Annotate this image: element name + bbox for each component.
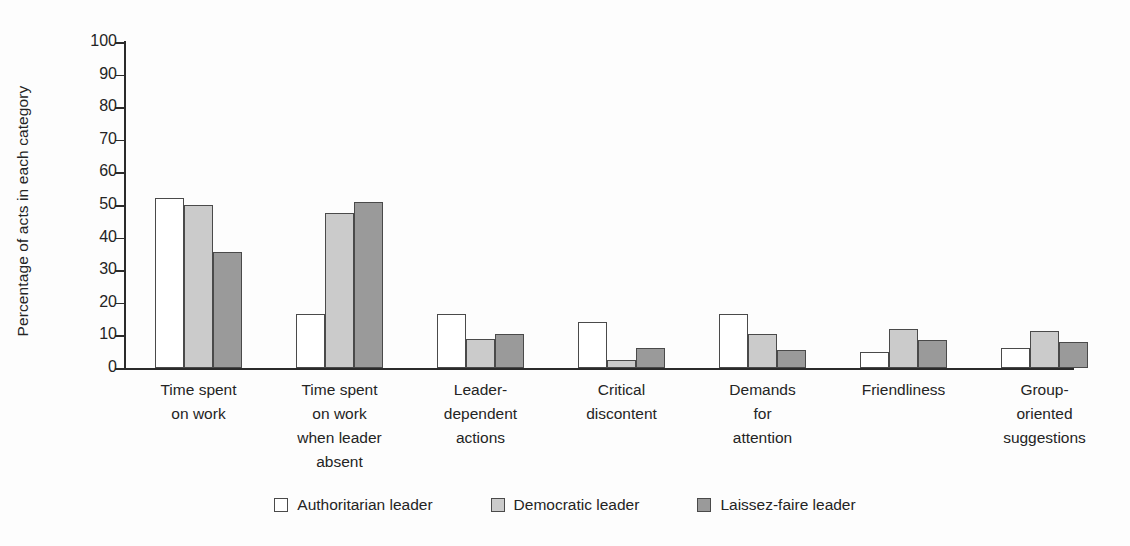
category-label-line: suggestions: [965, 426, 1125, 450]
legend-item: Laissez-faire leader: [697, 496, 855, 514]
category-label: Leader-dependentactions: [401, 378, 561, 450]
legend-swatch-icon: [491, 498, 505, 512]
bar: [1030, 331, 1059, 368]
category-label: Group-orientedsuggestions: [965, 378, 1125, 450]
legend-label: Laissez-faire leader: [720, 496, 855, 514]
category-label-line: discontent: [542, 402, 702, 426]
category-label-line: absent: [260, 450, 420, 474]
category-label-line: Time spent: [260, 378, 420, 402]
bar: [354, 202, 383, 368]
chart-legend: Authoritarian leaderDemocratic leaderLai…: [0, 496, 1130, 514]
category-label: Time spenton workwhen leaderabsent: [260, 378, 420, 474]
category-label-line: Friendliness: [824, 378, 984, 402]
category-label-line: attention: [683, 426, 843, 450]
bar: [1059, 342, 1088, 368]
bar-group: [296, 42, 383, 368]
bar-group: [719, 42, 806, 368]
category-label: Friendliness: [824, 378, 984, 402]
bar: [636, 348, 665, 368]
bar-group: [155, 42, 242, 368]
category-label-line: Critical: [542, 378, 702, 402]
bar: [777, 350, 806, 368]
category-label-line: Time spent: [119, 378, 279, 402]
y-tick-label: 40: [99, 227, 117, 247]
category-label-line: Demands: [683, 378, 843, 402]
y-tick-label: 100: [90, 31, 117, 51]
y-tick-label: 20: [99, 292, 117, 312]
bar: [213, 252, 242, 368]
category-label-line: Group-: [965, 378, 1125, 402]
category-label-line: dependent: [401, 402, 561, 426]
bar: [719, 314, 748, 368]
legend-swatch-icon: [697, 498, 711, 512]
category-label-line: for: [683, 402, 843, 426]
bar: [184, 205, 213, 368]
y-tick-label: 50: [99, 194, 117, 214]
category-label: Time spenton work: [119, 378, 279, 426]
y-axis-title: Percentage of acts in each category: [14, 46, 40, 376]
bar: [495, 334, 524, 368]
bar: [325, 213, 354, 368]
category-label-line: on work: [260, 402, 420, 426]
category-label-line: on work: [119, 402, 279, 426]
bar-group: [860, 42, 947, 368]
bar: [578, 322, 607, 368]
bar: [437, 314, 466, 368]
category-label: Criticaldiscontent: [542, 378, 702, 426]
category-label-line: when leader: [260, 426, 420, 450]
y-tick-label: 30: [99, 259, 117, 279]
category-label-line: oriented: [965, 402, 1125, 426]
bar: [860, 352, 889, 368]
bar-chart: Percentage of acts in each category 1009…: [0, 0, 1130, 546]
bar: [918, 340, 947, 368]
bar-group: [437, 42, 524, 368]
legend-item: Democratic leader: [491, 496, 640, 514]
bar: [889, 329, 918, 368]
bar: [155, 198, 184, 368]
y-axis-line: [124, 41, 126, 369]
y-tick-label: 10: [99, 324, 117, 344]
legend-swatch-icon: [274, 498, 288, 512]
y-tick-label: 0: [108, 357, 117, 377]
bar: [466, 339, 495, 368]
bar-group: [1001, 42, 1088, 368]
bar: [296, 314, 325, 368]
x-axis-line: [124, 368, 1074, 370]
category-label-line: actions: [401, 426, 561, 450]
bar: [748, 334, 777, 368]
y-tick-label: 80: [99, 96, 117, 116]
bar: [607, 360, 636, 368]
legend-label: Democratic leader: [514, 496, 640, 514]
y-tick-label: 90: [99, 64, 117, 84]
legend-item: Authoritarian leader: [274, 496, 432, 514]
y-tick-label: 60: [99, 161, 117, 181]
category-label-line: Leader-: [401, 378, 561, 402]
bar-group: [578, 42, 665, 368]
bar: [1001, 348, 1030, 368]
legend-label: Authoritarian leader: [297, 496, 432, 514]
category-label: Demandsforattention: [683, 378, 843, 450]
plot-area: 1009080706050403020100: [124, 42, 1074, 368]
y-tick-label: 70: [99, 129, 117, 149]
